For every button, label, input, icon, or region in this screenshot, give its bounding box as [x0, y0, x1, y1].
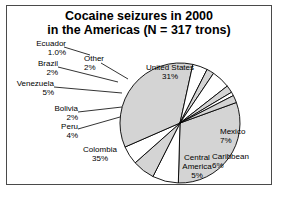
pie-label-brazil-name: Brazil: [38, 59, 58, 68]
pie-label-ecuador: Ecuador 1.0%: [10, 39, 66, 57]
pie-chart-plot: Ecuador 1.0% Brazil 2% Venezuela 5% Boli…: [6, 5, 272, 185]
pie-label-peru-value: 4%: [34, 131, 78, 140]
pie-label-peru-name: Peru: [61, 122, 78, 131]
pie-label-venezuela: Venezuela 5%: [6, 79, 54, 97]
pie-label-central-america-line2: America: [172, 162, 222, 171]
pie-label-mexico-name: Mexico: [220, 127, 245, 136]
pie-label-other-value: 2%: [84, 63, 124, 72]
pie-label-mexico-value: 7%: [220, 136, 268, 145]
pie-label-brazil-value: 2%: [10, 68, 58, 77]
pie-label-colombia-name: Colombia: [83, 145, 117, 154]
pie-label-united-states-value: 31%: [132, 72, 208, 81]
pie-label-bolivia-name: Bolivia: [54, 104, 78, 113]
pie-label-ecuador-name: Ecuador: [36, 39, 66, 48]
pie-label-bolivia: Bolivia 2%: [30, 104, 78, 122]
pie-label-other: Other 2%: [84, 54, 124, 72]
pie-label-venezuela-name: Venezuela: [17, 79, 54, 88]
pie-label-central-america-value: 5%: [172, 171, 222, 180]
pie-label-other-name: Other: [84, 54, 104, 63]
pie-label-united-states-name: United States: [146, 63, 194, 72]
pie-label-bolivia-value: 2%: [30, 113, 78, 122]
pie-label-brazil: Brazil 2%: [10, 59, 58, 77]
pie-label-central-america-line1: Central: [184, 153, 210, 162]
pie-label-colombia: Colombia 35%: [68, 145, 132, 163]
pie-label-peru: Peru 4%: [34, 122, 78, 140]
pie-label-united-states: United States 31%: [132, 63, 208, 81]
leader-line-venezuela: [54, 87, 122, 93]
pie-label-venezuela-value: 5%: [6, 88, 54, 97]
pie-label-central-america: Central America 5%: [172, 153, 222, 180]
chart-page: Cocaine seizures in 2000 in the Americas…: [0, 0, 281, 198]
pie-label-mexico: Mexico 7%: [220, 127, 268, 145]
pie-label-ecuador-value: 1.0%: [10, 48, 66, 57]
leader-line-peru: [78, 117, 120, 129]
pie-label-colombia-value: 35%: [68, 154, 132, 163]
leader-line-bolivia: [78, 107, 122, 112]
